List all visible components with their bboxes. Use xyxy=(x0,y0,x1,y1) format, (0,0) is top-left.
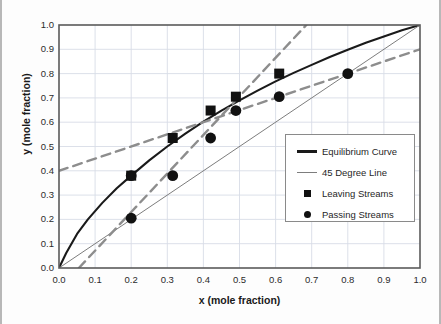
y-tick-label: 1.0 xyxy=(22,19,54,30)
thin-line-key-icon xyxy=(294,172,320,173)
x-tick-label: 0.1 xyxy=(78,274,112,285)
circle-marker-key-icon xyxy=(294,211,320,218)
legend-label: 45 Degree Line xyxy=(320,167,387,178)
x-tick-label: 0.9 xyxy=(367,274,401,285)
legend-item-leaving-streams: Leaving Streams xyxy=(286,183,414,204)
legend-label: Leaving Streams xyxy=(320,188,393,199)
legend-item-equilibrium-curve: Equilibrium Curve xyxy=(286,141,414,162)
x-axis-title: x (mole fraction) xyxy=(59,294,420,306)
y-tick-label: 0.2 xyxy=(22,213,54,224)
x-tick-label: 0.0 xyxy=(42,274,76,285)
legend-label: Passing Streams xyxy=(320,209,394,220)
y-axis-title: y (mole fraction) xyxy=(20,44,32,184)
x-tick-label: 0.2 xyxy=(114,274,148,285)
x-tick-label: 0.6 xyxy=(259,274,293,285)
x-tick-label: 0.7 xyxy=(295,274,329,285)
y-tick-label: 0.1 xyxy=(22,238,54,249)
y-tick-label: 0.0 xyxy=(22,262,54,273)
chart-legend: Equilibrium Curve 45 Degree Line Leaving… xyxy=(285,134,415,222)
legend-item-passing-streams: Passing Streams xyxy=(286,204,414,225)
x-tick-label: 0.4 xyxy=(186,274,220,285)
legend-label: Equilibrium Curve xyxy=(320,146,397,157)
legend-item-45-degree-line: 45 Degree Line xyxy=(286,162,414,183)
x-tick-label: 0.8 xyxy=(331,274,365,285)
x-tick-label: 1.0 xyxy=(403,274,437,285)
x-tick-label: 0.5 xyxy=(223,274,257,285)
square-marker-key-icon xyxy=(294,190,320,197)
x-tick-label: 0.3 xyxy=(150,274,184,285)
thick-line-key-icon xyxy=(294,150,320,153)
chart-figure: 0.00.10.20.30.40.50.60.70.80.91.0 0.00.1… xyxy=(0,0,441,324)
y-tick-label: 0.3 xyxy=(22,189,54,200)
